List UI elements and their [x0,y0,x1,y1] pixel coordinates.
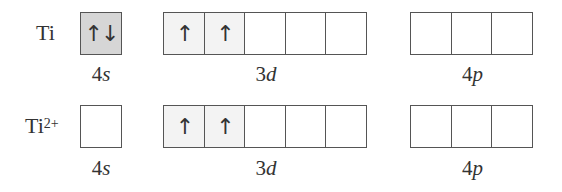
orbital-group-4p [410,12,533,55]
orbital-box: ↑↓ [80,12,122,55]
subshell-number: 4 [92,156,103,180]
species-label-ti: Ti [36,22,55,44]
orbital-group-4s [80,105,122,148]
orbital-box [325,12,367,55]
subshell-number: 4 [462,156,473,180]
orbital-box [244,12,286,55]
charge-superscript: 2+ [44,116,59,131]
orbital-group-3d: ↑ ↑ [163,105,367,148]
subshell-label-4p: 4p [410,62,535,87]
subshell-label-4s: 4s [80,62,122,87]
orbital-box [285,12,327,55]
ti-row: Ti ↑↓ 4s ↑ ↑ 3d 4p [0,0,562,96]
subshell-number: 4 [462,62,473,86]
subshell-label-3d: 3d [163,156,369,181]
subshell-number: 4 [92,62,103,86]
orbital-box [80,105,122,148]
species-symbol: Ti [25,113,44,138]
species-symbol: Ti [36,20,55,45]
orbital-box [244,105,286,148]
subshell-letter: s [102,156,110,180]
orbital-group-4p [410,105,533,148]
subshell-letter: p [473,62,484,86]
subshell-letter: s [102,62,110,86]
subshell-label-3d: 3d [163,62,369,87]
subshell-letter: p [473,156,484,180]
orbital-group-3d: ↑ ↑ [163,12,367,55]
orbital-box [410,12,452,55]
subshell-letter: d [266,156,277,180]
subshell-letter: d [266,62,277,86]
orbital-box [491,12,533,55]
ti2plus-row: Ti2+ 4s ↑ ↑ 3d 4p [0,96,562,192]
orbital-box: ↑ [204,12,246,55]
orbital-box [491,105,533,148]
orbital-box [451,12,493,55]
orbital-box: ↑ [163,12,205,55]
subshell-number: 3 [256,62,267,86]
subshell-label-4s: 4s [80,156,122,181]
orbital-box [410,105,452,148]
orbital-box: ↑ [204,105,246,148]
orbital-box [285,105,327,148]
orbital-box [451,105,493,148]
subshell-label-4p: 4p [410,156,535,181]
orbital-box: ↑ [163,105,205,148]
orbital-group-4s: ↑↓ [80,12,122,55]
species-label-ti2plus: Ti2+ [25,115,59,137]
orbital-box [325,105,367,148]
subshell-number: 3 [256,156,267,180]
